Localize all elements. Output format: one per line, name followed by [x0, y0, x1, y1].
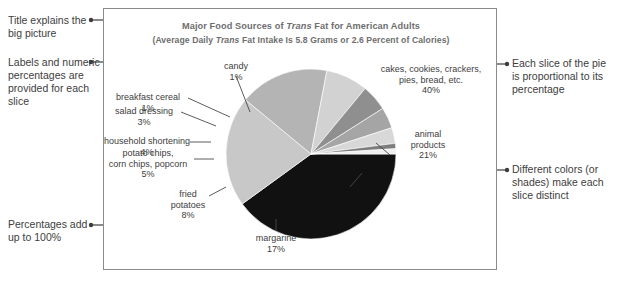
slice-label-household-shortening: household shortening 4%	[102, 136, 192, 157]
slice-label-cakes: cakes, cookies, crackers, pies, bread, e…	[368, 64, 494, 96]
slice-label-candy-line1: candy	[210, 61, 262, 72]
slice-label-animal-value: 21%	[396, 150, 460, 161]
leader-line-salad-dressing	[181, 112, 216, 126]
leader-line-breakfast-cereal	[188, 98, 230, 117]
slice-label-cakes-line1: cakes, cookies, crackers,	[368, 64, 494, 75]
annotation-labels-percentages: Labels and numeric percentages are provi…	[8, 56, 100, 108]
slice-label-cakes-value: 40%	[368, 85, 494, 96]
slice-label-margarine: margarine 17%	[240, 233, 312, 254]
slice-label-potato-chips-value: 5%	[100, 169, 196, 180]
slice-label-fried-potatoes-value: 8%	[162, 210, 214, 221]
slice-label-breakfast-cereal-value: 1%	[106, 103, 190, 114]
slice-label-salad-dressing-value: 3%	[106, 117, 182, 128]
slice-label-potato-chips-line2: corn chips, popcorn	[100, 159, 196, 170]
slice-label-candy: candy 1%	[210, 61, 262, 82]
slice-label-fried-potatoes: fried potatoes 8%	[162, 189, 214, 221]
figure-root: Title explains the big picture Labels an…	[0, 0, 619, 283]
slice-label-animal-products: animal products 21%	[396, 129, 460, 161]
slice-label-margarine-line1: margarine	[240, 233, 312, 244]
slice-label-fried-potatoes-line1: fried	[162, 189, 214, 200]
slice-label-cakes-line2: pies, bread, etc.	[368, 75, 494, 86]
slice-label-fried-potatoes-line2: potatoes	[162, 200, 214, 211]
slice-label-breakfast-cereal: breakfast cereal 1%	[106, 92, 190, 113]
annotation-colors-distinct: Different colors (or shades) make each s…	[512, 163, 616, 202]
slice-label-animal-line2: products	[396, 140, 460, 151]
slice-label-margarine-value: 17%	[240, 244, 312, 255]
slice-label-animal-line1: animal	[396, 129, 460, 140]
annotation-slice-proportional: Each slice of the pie is proportional to…	[512, 57, 616, 96]
slice-label-breakfast-cereal-line1: breakfast cereal	[106, 92, 190, 103]
annotation-percentages-total: Percentages add up to 100%	[8, 218, 100, 244]
slice-label-household-shortening-line1: household shortening	[102, 136, 192, 147]
annotation-title-explains: Title explains the big picture	[8, 14, 100, 40]
figure-frame: Major Food Sources of Trans Fat for Amer…	[103, 8, 497, 270]
pie-chart: cakes, cookies, crackers, pies, bread, e…	[104, 9, 498, 271]
slice-label-household-shortening-value: 4%	[102, 147, 192, 158]
slice-label-candy-value: 1%	[210, 72, 262, 83]
